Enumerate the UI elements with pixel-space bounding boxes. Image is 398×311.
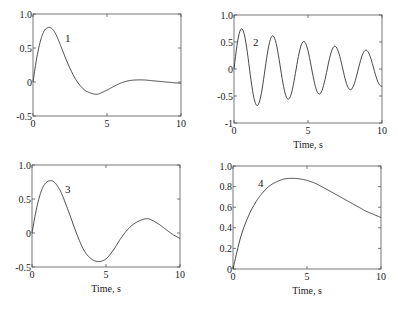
y-tick-label: 1.0: [221, 10, 234, 21]
subplot-2: 05101.00.50-0.5-12Time, s: [217, 10, 387, 151]
y-tick-label: 1.0: [19, 160, 32, 171]
y-tick-label: -1: [225, 118, 233, 129]
y-tick-label: 0: [27, 77, 32, 88]
x-tick-label: 5: [105, 118, 110, 129]
plot-frame: [234, 15, 382, 123]
x-axis-label: Time, s: [292, 285, 322, 296]
y-tick-label: 0.5: [19, 194, 32, 205]
y-tick-label: -0.5: [16, 111, 32, 122]
curve-3: [32, 181, 180, 262]
y-tick-label: 0: [227, 264, 232, 275]
curve-label: 4: [258, 177, 264, 189]
subplot-1: 05101.00.50-0.51: [16, 9, 186, 130]
plot-frame: [32, 165, 180, 267]
subplot-3: 05101.00.50-0.53Time, s: [15, 160, 185, 295]
y-tick-label: 1.0: [220, 161, 233, 172]
y-tick-label: -0.5: [217, 91, 233, 102]
x-tick-label: 5: [305, 271, 310, 282]
y-tick-label: 0: [26, 228, 31, 239]
x-tick-label: 10: [377, 125, 387, 136]
curve-1: [33, 27, 181, 94]
y-tick-label: 0.6: [220, 202, 233, 213]
y-tick-label: 0.8: [220, 181, 233, 192]
y-tick-label: 0.5: [221, 37, 234, 48]
x-tick-label: 5: [306, 125, 311, 136]
y-tick-label: -0.5: [15, 262, 31, 273]
x-axis-label: Time, s: [293, 139, 323, 150]
x-tick-label: 10: [376, 271, 386, 282]
plot-frame: [233, 166, 381, 269]
y-tick-label: 0.4: [220, 222, 233, 233]
subplot-4: 05101.00.80.60.40.204Time, s: [220, 161, 387, 297]
x-axis-label: Time, s: [91, 283, 121, 294]
plot-frame: [33, 14, 181, 116]
curve-4: [233, 178, 381, 269]
x-tick-label: 5: [104, 269, 109, 280]
curve-label: 2: [253, 36, 259, 48]
figure: 05101.00.50-0.51 05101.00.50-0.5-12Time,…: [0, 0, 398, 311]
x-tick-label: 10: [176, 118, 186, 129]
y-tick-label: 0.2: [220, 243, 233, 254]
curve-label: 3: [65, 183, 71, 195]
x-tick-label: 10: [175, 269, 185, 280]
curve-label: 1: [65, 32, 71, 44]
y-tick-label: 0.5: [20, 43, 33, 54]
y-tick-label: 1.0: [20, 9, 33, 20]
y-tick-label: 0: [228, 64, 233, 75]
